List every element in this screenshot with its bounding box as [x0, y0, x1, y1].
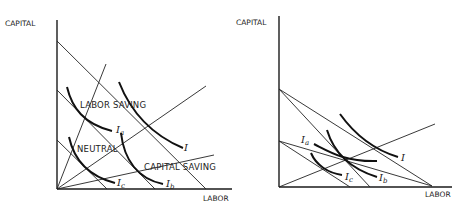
right-x-axis-label: LABOR — [425, 190, 451, 199]
isoquant-label-I: I — [400, 152, 406, 163]
isoquant-label-Ia: Ia — [300, 134, 309, 147]
isocost-line-lowest — [279, 141, 350, 187]
isoquant-label-Ic: Ic — [344, 171, 353, 184]
isoquant-label-Ib: Ib — [378, 172, 388, 185]
isoquant-label-Ia: Ia — [115, 124, 124, 137]
right-panel: CAPITAL LABOR I Ia Ib Ic — [236, 16, 452, 199]
label-capital-saving: CAPITAL SAVING — [144, 162, 216, 172]
isoquant-label-Ic: Ic — [116, 177, 125, 190]
isocost-line-lower — [279, 141, 432, 186]
label-neutral: NEUTRAL — [77, 144, 118, 154]
ray-shallow — [57, 155, 214, 189]
left-y-axis-label: CAPITAL — [5, 19, 36, 28]
isoquant-label-I: I — [183, 142, 189, 153]
label-labor-saving: LABOR SAVING — [80, 100, 146, 110]
diagram-canvas: CAPITAL LABOR LABOR SAVING NEUTRAL CAPIT… — [0, 0, 468, 210]
left-panel: CAPITAL LABOR LABOR SAVING NEUTRAL CAPIT… — [5, 19, 232, 203]
isoquant-I — [119, 82, 183, 148]
left-x-axis-label: LABOR — [203, 194, 229, 203]
right-y-axis-label: CAPITAL — [236, 18, 267, 27]
